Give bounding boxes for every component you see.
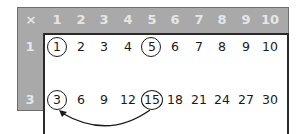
curved-arrow-icon bbox=[0, 0, 302, 134]
